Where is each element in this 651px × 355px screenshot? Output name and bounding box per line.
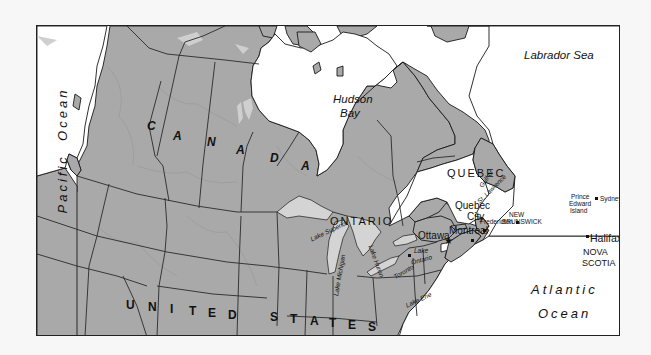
nova-scotia-label-2: SCOTIA — [582, 259, 616, 268]
montreal-label: Montreal — [449, 226, 488, 236]
pacific-ocean-label: Pacific Ocean — [56, 86, 69, 216]
map-frame: C A N A D A U N I T E D S T A T E S Paci… — [36, 25, 620, 336]
atlantic-ocean-label-1: Atlantic — [531, 283, 598, 296]
halifax-marker — [586, 235, 589, 238]
pei-label-3: Island — [570, 208, 587, 215]
quebec-city-label-1: Quebec — [455, 201, 490, 211]
atlantic-ocean-label-2: Ocean — [538, 307, 591, 320]
toronto-marker — [408, 254, 411, 257]
nova-scotia-label-1: NOVA — [583, 248, 608, 257]
quebec-label: QUEBEC — [447, 168, 505, 179]
montreal-marker — [471, 239, 474, 242]
fredericton-label: Fredericton — [480, 219, 513, 226]
halifax-label: Halifax — [590, 233, 620, 244]
labrador-sea-label: Labrador Sea — [524, 50, 594, 62]
hudson-bay-label-1: Hudson — [333, 94, 373, 106]
fredericton-marker — [516, 221, 519, 224]
sydney-marker — [595, 197, 598, 200]
hudson-bay-label-2: Bay — [340, 108, 360, 120]
sydney-label: Sydney — [600, 196, 620, 203]
capital-star-icon: ★ — [444, 236, 453, 246]
